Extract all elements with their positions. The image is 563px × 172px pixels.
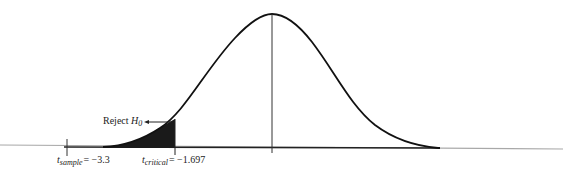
reject-label: Reject H0 — [103, 115, 142, 128]
arrowhead-icon — [144, 120, 149, 124]
t-sample-label: tsample= −3.3 — [57, 154, 110, 167]
t-critical-label: tcritical= −1.697 — [142, 154, 205, 167]
t-curve — [103, 14, 438, 148]
t-distribution-chart: Reject H0 tsample= −3.3 tcritical= −1.69… — [0, 0, 563, 172]
